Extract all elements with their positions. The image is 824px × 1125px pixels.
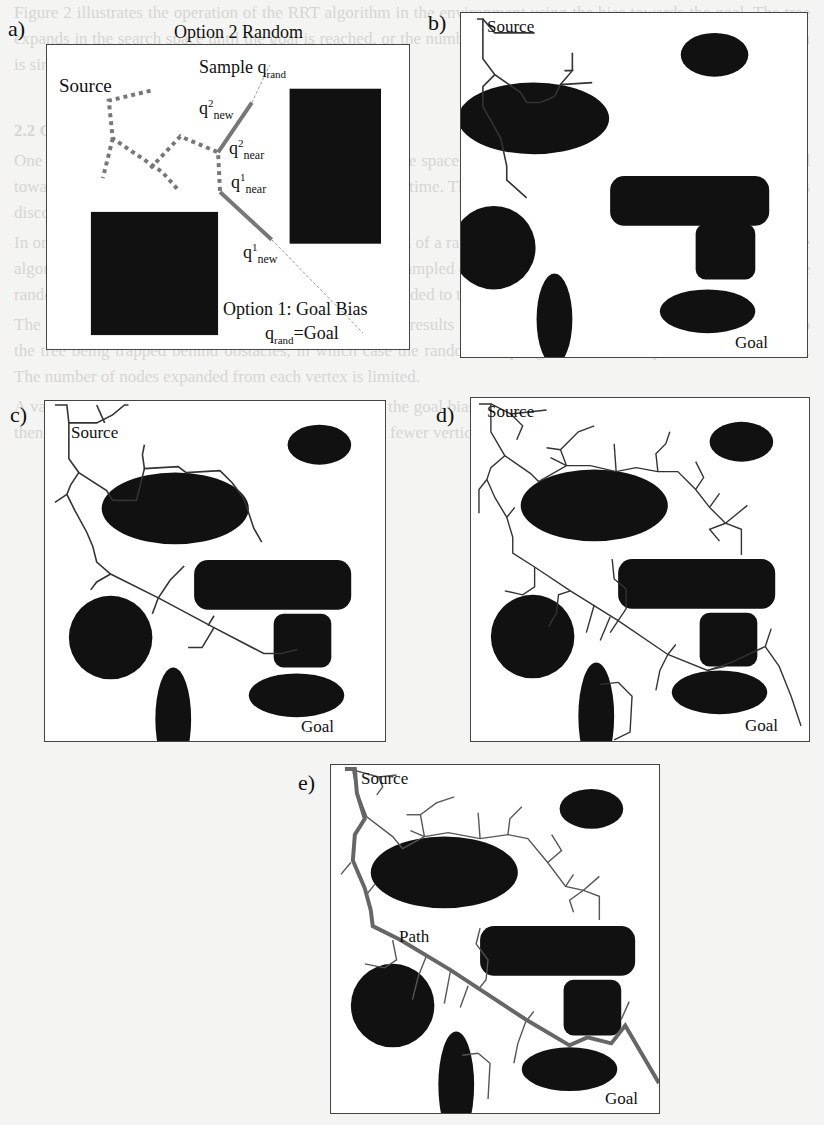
sample-qrand-label: Sample qrand	[199, 57, 286, 80]
panel-a: Sample qrand Source q2new q2near q1near …	[46, 44, 410, 350]
panel-e-label: e)	[298, 770, 315, 796]
option2-title: Option 2 Random	[174, 22, 303, 43]
q2-near-label: q2near	[229, 137, 264, 163]
goal-label: Goal	[735, 333, 768, 353]
source-label: Source	[59, 75, 112, 97]
path-label: Path	[399, 927, 429, 947]
panel-b: Source Goal	[460, 12, 808, 358]
panel-d-label: d)	[436, 402, 454, 428]
obstacle	[91, 212, 218, 335]
source-label: Source	[71, 423, 118, 443]
q1-near-label: q1near	[231, 171, 266, 197]
panel-b-label: b)	[428, 10, 446, 36]
obstacle	[290, 89, 381, 244]
goal-bias-label: Option 1: Goal Bias	[223, 299, 368, 320]
panel-a-label: a)	[8, 16, 25, 42]
source-label: Source	[361, 769, 408, 789]
goal-label: Goal	[301, 717, 334, 737]
source-label: Source	[487, 402, 534, 422]
panel-c: Source Goal	[44, 400, 386, 742]
goal-label: Goal	[745, 716, 778, 736]
q1-new-label: q1new	[243, 241, 278, 267]
panel-d: Source Goal	[470, 397, 810, 742]
q2-new-label: q2new	[199, 97, 234, 123]
panel-c-label: c)	[10, 402, 27, 428]
source-label: Source	[487, 17, 534, 37]
qrand-goal-label: qrand=Goal	[265, 323, 339, 346]
goal-label: Goal	[605, 1089, 638, 1109]
panel-e: Source Path Goal	[330, 764, 660, 1114]
